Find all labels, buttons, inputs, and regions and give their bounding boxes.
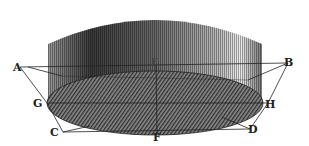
label-b: B bbox=[284, 57, 293, 68]
label-g: G bbox=[33, 98, 42, 109]
cylinder-figure bbox=[0, 0, 309, 146]
label-h: H bbox=[265, 99, 275, 110]
cylinder-diagram: A B C D E F G H bbox=[0, 0, 309, 146]
label-f: F bbox=[153, 132, 161, 143]
label-e: E bbox=[151, 58, 158, 67]
label-c: C bbox=[50, 127, 59, 138]
label-a: A bbox=[13, 62, 22, 73]
label-d: D bbox=[248, 124, 258, 135]
